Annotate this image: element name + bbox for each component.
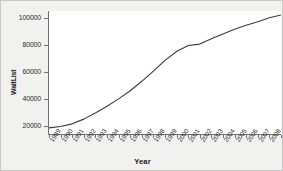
y-axis-line	[48, 11, 49, 135]
y-tick-mark	[44, 45, 48, 46]
y-tick-label: 40000	[23, 95, 41, 102]
y-tick-mark	[44, 18, 48, 19]
y-tick-label: 20000	[23, 122, 41, 129]
plot-area	[49, 11, 281, 134]
y-tick-mark	[44, 126, 48, 127]
y-tick-mark	[44, 99, 48, 100]
y-tick-label: 80000	[23, 41, 41, 48]
x-axis-title: Year	[1, 157, 283, 166]
chart-figure: 20000400006000080000100000 1989199019911…	[0, 0, 283, 171]
line-chart-svg	[49, 11, 281, 134]
y-axis-title: WaitList	[10, 70, 17, 95]
waitlist-line-series	[49, 15, 281, 128]
y-tick-label: 60000	[23, 68, 41, 75]
y-tick-mark	[44, 72, 48, 73]
y-tick-label: 100000	[19, 14, 41, 21]
